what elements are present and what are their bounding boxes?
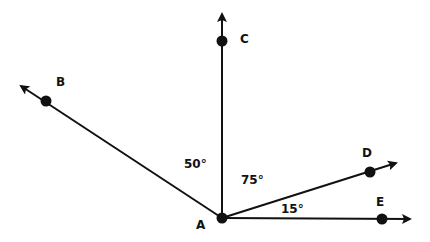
point-label-e: E <box>376 195 384 209</box>
vertex-point-a <box>217 213 228 224</box>
point-label-b: B <box>56 75 65 89</box>
point-label-d: D <box>362 146 372 160</box>
point-d <box>365 167 376 178</box>
angle-label-dae: 15° <box>281 202 304 216</box>
vertex-label-a: A <box>196 218 206 232</box>
rays <box>21 14 410 219</box>
point-e <box>377 214 388 225</box>
angle-label-bac: 50° <box>184 157 207 171</box>
point-b <box>41 96 52 107</box>
point-label-c: C <box>240 32 249 46</box>
angle-label-cad: 75° <box>241 173 264 187</box>
angle-diagram: A 50° 75° 15° C B D E <box>0 0 430 242</box>
ray-ab <box>21 86 222 218</box>
point-c <box>217 36 228 47</box>
points <box>41 36 388 225</box>
